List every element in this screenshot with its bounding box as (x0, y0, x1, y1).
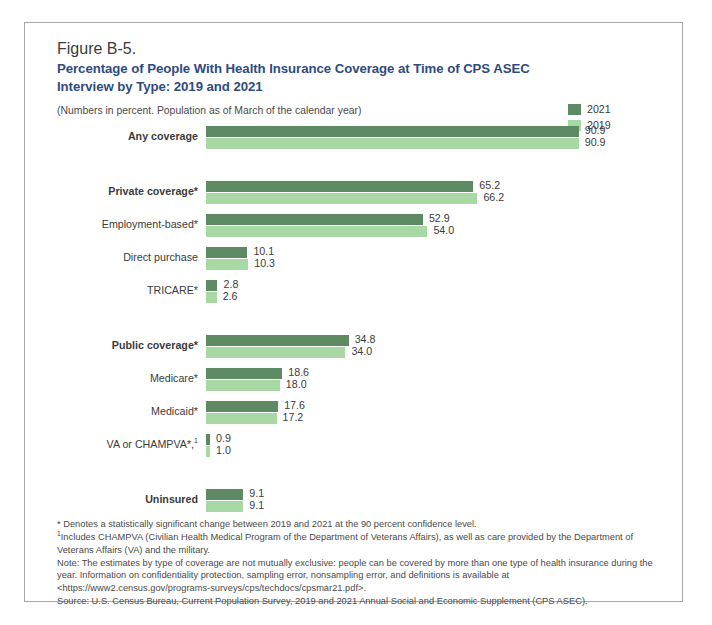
chart-row: Medicare*18.618.0 (57, 368, 657, 401)
bar-line-2019: 66.2 (206, 193, 657, 204)
bar-2019 (206, 501, 243, 512)
bar-2021 (206, 280, 217, 291)
bar-value-label: 54.0 (433, 224, 454, 237)
footnote-one: 1Includes CHAMPVA (Civilian Health Medic… (57, 531, 654, 556)
bar-value-label: 17.2 (283, 411, 304, 424)
bar-value-label: 90.9 (585, 136, 606, 149)
bar-line-2021: 0.9 (206, 434, 657, 445)
bar-2021 (206, 368, 282, 379)
bar-line-2021: 9.1 (206, 489, 657, 500)
chart-row: VA or CHAMPVA*,10.91.0 (57, 434, 657, 467)
category-label: Uninsured (0, 493, 198, 506)
bar-2019 (206, 259, 248, 270)
bar-2019 (206, 380, 280, 391)
bar-pair: 90.990.9 (206, 126, 657, 150)
bar-2019 (206, 193, 477, 204)
category-label: TRICARE* (0, 284, 198, 297)
category-label: Employment-based* (0, 218, 198, 231)
bar-chart: Any coverage90.990.9Private coverage*65.… (57, 126, 657, 522)
bar-line-2019: 34.0 (206, 347, 657, 358)
bar-pair: 17.617.2 (206, 401, 657, 425)
chart-row: Direct purchase10.110.3 (57, 247, 657, 280)
bar-pair: 9.19.1 (206, 489, 657, 513)
bar-2021 (206, 335, 349, 346)
bar-2019 (206, 413, 277, 424)
bar-line-2019: 17.2 (206, 413, 657, 424)
chart-row: Private coverage*65.266.2 (57, 181, 657, 214)
chart-row: TRICARE*2.82.6 (57, 280, 657, 313)
category-label: Direct purchase (0, 251, 198, 264)
bar-pair: 34.834.0 (206, 335, 657, 359)
bar-value-label: 10.3 (254, 257, 275, 270)
bar-line-2019: 90.9 (206, 138, 657, 149)
category-label: Medicaid* (0, 405, 198, 418)
bar-line-2021: 17.6 (206, 401, 657, 412)
bar-2019 (206, 226, 427, 237)
chart-row: Any coverage90.990.9 (57, 126, 657, 159)
bar-pair: 65.266.2 (206, 181, 657, 205)
bar-line-2019: 1.0 (206, 446, 657, 457)
bar-line-2021: 34.8 (206, 335, 657, 346)
category-label: VA or CHAMPVA*,1 (0, 438, 198, 451)
bar-2019 (206, 292, 217, 303)
category-label: Any coverage (0, 130, 198, 143)
bar-value-label: 1.0 (216, 444, 231, 457)
bar-2021 (206, 434, 210, 445)
bar-2019 (206, 446, 210, 457)
bar-line-2021: 52.9 (206, 214, 657, 225)
bar-2021 (206, 401, 278, 412)
bar-2021 (206, 247, 247, 258)
legend-item-label: 2021 (587, 104, 611, 115)
bar-line-2021: 18.6 (206, 368, 657, 379)
category-label: Public coverage* (0, 339, 198, 352)
figure-number: Figure B-5. (57, 40, 668, 58)
bar-pair: 52.954.0 (206, 214, 657, 238)
bar-line-2019: 9.1 (206, 501, 657, 512)
category-label-superscript: 1 (194, 437, 198, 444)
bar-line-2019: 2.6 (206, 292, 657, 303)
bar-2021 (206, 489, 243, 500)
bar-pair: 10.110.3 (206, 247, 657, 271)
bar-2019 (206, 347, 345, 358)
chart-row: Public coverage*34.834.0 (57, 335, 657, 368)
footnote-asterisk: * Denotes a statistically significant ch… (57, 518, 654, 531)
category-label: Private coverage* (0, 185, 198, 198)
legend-swatch-icon (568, 104, 581, 115)
bar-2019 (206, 138, 579, 149)
footnote-source: Source: U.S. Census Bureau, Current Popu… (57, 595, 654, 608)
bar-pair: 0.91.0 (206, 434, 657, 458)
figure-frame: Figure B-5. Percentage of People With He… (24, 22, 683, 602)
footnote-one-text: Includes CHAMPVA (Civilian Health Medica… (57, 532, 633, 555)
category-label: Medicare* (0, 372, 198, 385)
bar-2021 (206, 214, 423, 225)
legend-item-2021: 2021 (568, 102, 654, 116)
bar-value-label: 9.1 (249, 499, 264, 512)
bar-line-2021: 65.2 (206, 181, 657, 192)
bar-value-label: 2.6 (223, 290, 238, 303)
bar-line-2019: 54.0 (206, 226, 657, 237)
chart-row: Employment-based*52.954.0 (57, 214, 657, 247)
bar-line-2019: 10.3 (206, 259, 657, 270)
bar-pair: 2.82.6 (206, 280, 657, 304)
footnotes-block: * Denotes a statistically significant ch… (57, 518, 654, 608)
chart-row: Medicaid*17.617.2 (57, 401, 657, 434)
bar-pair: 18.618.0 (206, 368, 657, 392)
bar-value-label: 18.0 (286, 378, 307, 391)
bar-2021 (206, 181, 473, 192)
bar-value-label: 34.0 (351, 345, 372, 358)
footnote-note: Note: The estimates by type of coverage … (57, 557, 654, 595)
bar-line-2019: 18.0 (206, 380, 657, 391)
bar-line-2021: 2.8 (206, 280, 657, 291)
figure-title: Percentage of People With Health Insuran… (57, 60, 587, 95)
bar-2021 (206, 126, 579, 137)
bar-value-label: 66.2 (483, 191, 504, 204)
